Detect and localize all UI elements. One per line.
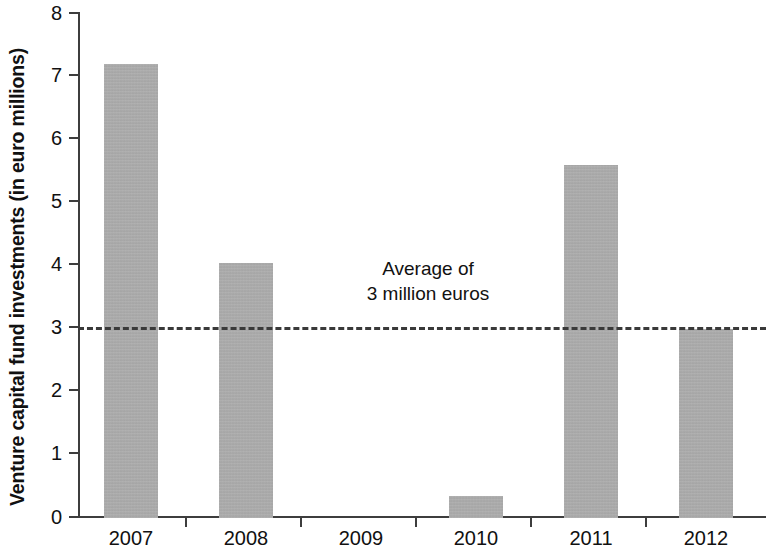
x-tick-boundary-2	[300, 518, 302, 527]
bar-chart: Venture capital fund investments (in eur…	[0, 0, 766, 554]
bar-2011	[564, 165, 618, 518]
y-tick-label-2: 2	[51, 380, 62, 400]
average-reference-line	[78, 327, 766, 330]
y-tick-6: 6	[69, 137, 78, 139]
y-tick-3: 3	[69, 326, 78, 328]
y-tick-label-5: 5	[51, 191, 62, 211]
average-annotation-line-2: 3 million euros	[367, 282, 490, 306]
y-tick-label-8: 8	[51, 3, 62, 23]
average-annotation-line-1: Average of	[382, 257, 474, 281]
y-tick-label-3: 3	[51, 317, 62, 337]
y-tick-0: 0	[69, 516, 78, 518]
y-tick-8: 8	[69, 12, 78, 14]
x-axis-label-2008: 2008	[224, 528, 269, 548]
bar-2008	[219, 263, 273, 518]
x-tick-boundary-5	[645, 518, 647, 527]
x-axis-label-2009: 2009	[339, 528, 384, 548]
y-tick-7: 7	[69, 74, 78, 76]
y-tick-1: 1	[69, 452, 78, 454]
x-axis-label-2011: 2011	[569, 528, 612, 548]
y-tick-label-1: 1	[51, 443, 62, 463]
x-tick-boundary-1	[185, 518, 187, 527]
y-tick-4: 4	[69, 263, 78, 265]
y-tick-label-4: 4	[51, 254, 62, 274]
bar-2012	[679, 329, 733, 518]
plot-area: 8 7 6 5 4 3 2 1 0	[78, 12, 766, 518]
x-axis-label-2012: 2012	[684, 528, 729, 548]
bar-2010	[449, 496, 503, 518]
y-tick-5: 5	[69, 200, 78, 202]
x-axis-label-2007: 2007	[109, 528, 154, 548]
x-axis-line	[78, 516, 766, 518]
x-axis-label-2010: 2010	[454, 528, 499, 548]
y-axis-title: Venture capital fund investments (in eur…	[0, 0, 34, 554]
bar-2007	[104, 64, 158, 518]
y-axis-line	[78, 12, 80, 518]
x-tick-boundary-3	[415, 518, 417, 527]
y-tick-label-7: 7	[51, 65, 62, 85]
x-tick-boundary-4	[530, 518, 532, 527]
y-tick-2: 2	[69, 389, 78, 391]
y-tick-label-6: 6	[51, 128, 62, 148]
y-tick-label-0: 0	[51, 507, 62, 527]
